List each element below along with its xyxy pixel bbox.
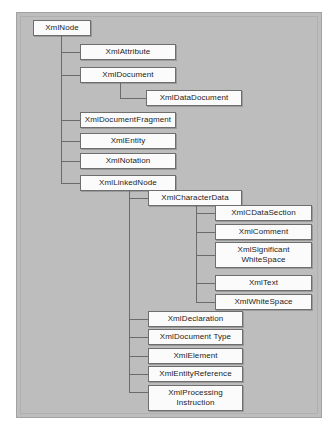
connector-stub-xmldocument	[61, 75, 80, 76]
class-hierarchy-diagram: XmlNode XmlAttribute XmlDocument XmlData…	[0, 0, 336, 446]
node-xml-declaration[interactable]: XmlDeclaration	[148, 311, 243, 327]
connector-trunk-xmldocument	[120, 83, 121, 98]
node-xml-notation[interactable]: XmlNotation	[80, 153, 176, 169]
node-xml-entity[interactable]: XmlEntity	[80, 133, 176, 149]
node-xml-white-space[interactable]: XmlWhiteSpace	[215, 294, 312, 310]
connector-stub-xmlattribute	[61, 52, 80, 53]
connector-stub-xmllinkednode	[61, 183, 80, 184]
connector-stub-xmlwhitespace	[196, 302, 215, 303]
connector-stub-xmltext	[196, 283, 215, 284]
connector-stub-xmlentity	[61, 141, 80, 142]
node-xml-comment[interactable]: XmlComment	[215, 224, 312, 240]
connector-stub-xmlcharacterdata	[129, 198, 148, 199]
connector-stub-xmlnotation	[61, 161, 80, 162]
connector-stub-xmlsignificantwhitespace	[196, 255, 215, 256]
connector-stub-xmldocumenttype	[129, 337, 148, 338]
connector-stub-xmlelement	[129, 356, 148, 357]
connector-stub-xmlcdatasection	[196, 213, 215, 214]
connector-stub-xmlcomment	[196, 232, 215, 233]
connector-trunk-xmllinkednode	[129, 191, 130, 392]
node-xml-data-document[interactable]: XmlDataDocument	[146, 90, 242, 106]
node-xml-attribute[interactable]: XmlAttribute	[80, 44, 176, 60]
connector-stub-xmlprocessinginstruction	[129, 392, 148, 393]
node-xml-node[interactable]: XmlNode	[33, 20, 91, 36]
node-xml-cdata-section[interactable]: XmlCDataSection	[215, 205, 312, 221]
node-xml-entity-reference[interactable]: XmlEntityReference	[148, 366, 243, 382]
node-xml-processing-instruction[interactable]: XmlProcessing Instruction	[148, 385, 243, 411]
node-xml-character-data[interactable]: XmlCharacterData	[148, 190, 242, 206]
node-xml-linked-node[interactable]: XmlLinkedNode	[80, 175, 176, 191]
node-xml-element[interactable]: XmlElement	[148, 348, 243, 364]
connector-stub-xmldeclaration	[129, 319, 148, 320]
node-xml-document-type[interactable]: XmlDocument Type	[148, 329, 243, 345]
connector-stub-xmldatadocument	[120, 98, 146, 99]
node-xml-document[interactable]: XmlDocument	[80, 67, 176, 83]
connector-stub-xmldocumentfragment	[61, 120, 80, 121]
node-xml-significant-white-space[interactable]: XmlSignificant WhiteSpace	[215, 242, 312, 268]
connector-stub-xmlentityreference	[129, 374, 148, 375]
node-xml-text[interactable]: XmlText	[215, 275, 312, 291]
connector-trunk-xmlcharacterdata	[196, 206, 197, 302]
node-xml-document-fragment[interactable]: XmlDocumentFragment	[80, 112, 176, 128]
